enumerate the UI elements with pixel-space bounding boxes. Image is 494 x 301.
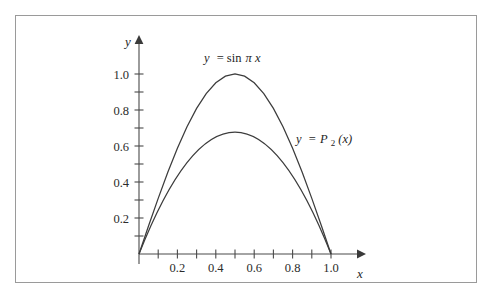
x-tick-label-1: 0.4	[208, 261, 224, 275]
y-tick-label-4: 1.0	[113, 68, 129, 82]
poly-annotation-arg: (x)	[338, 132, 352, 146]
y-axis-label: y	[123, 34, 131, 49]
sine-annotation-var: x	[254, 51, 261, 65]
poly-annotation-y: y	[294, 132, 302, 146]
y-tick-label-2: 0.6	[113, 140, 129, 154]
sine-annotation-eq: = sin	[217, 51, 245, 65]
y-axis-arrow-icon	[135, 35, 144, 44]
x-axis-arrow-icon	[357, 250, 366, 259]
x-tick-label-0: 0.2	[170, 261, 186, 275]
curve-p2	[139, 132, 331, 254]
y-tick-label-3: 0.8	[113, 104, 129, 118]
poly-curve-annotation: y = P 2 (x)	[294, 132, 352, 149]
figure-frame: 0.2 0.4 0.6 0.8 1.0 0.2 0.4 0.6 0.8 1.0 …	[15, 15, 477, 283]
poly-annotation-name: P	[319, 132, 328, 146]
x-tick-label-2: 0.6	[246, 261, 262, 275]
sine-annotation-pi: π	[246, 51, 253, 65]
plot-area: 0.2 0.4 0.6 0.8 1.0 0.2 0.4 0.6 0.8 1.0 …	[16, 16, 476, 282]
y-tick-label-1: 0.4	[113, 176, 129, 190]
x-tick-label-3: 0.8	[285, 261, 301, 275]
sine-annotation-y: y	[202, 51, 210, 65]
x-axis-label: x	[356, 266, 363, 281]
y-tick-label-0: 0.2	[113, 212, 129, 226]
x-tick-label-4: 1.0	[323, 261, 339, 275]
curve-sine	[139, 74, 331, 254]
poly-annotation-subscript: 2	[331, 138, 336, 148]
sine-curve-annotation: y = sin π x	[202, 51, 261, 65]
poly-annotation-eq: =	[309, 132, 319, 146]
